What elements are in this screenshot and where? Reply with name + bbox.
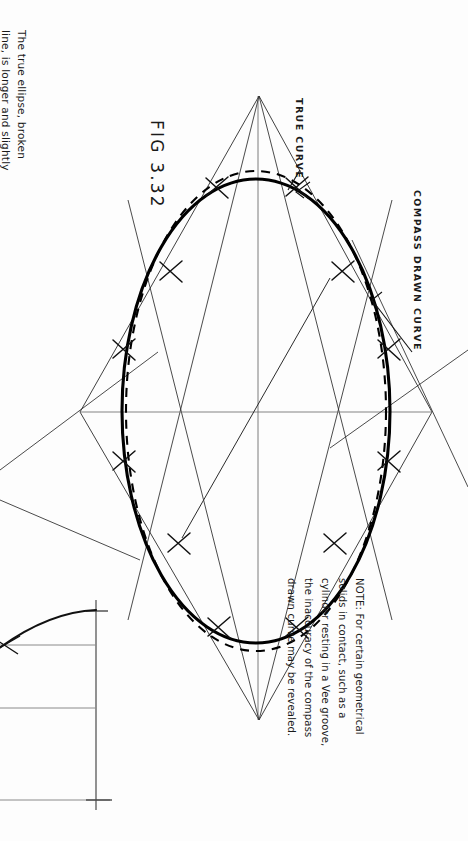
figure-canvas [0,0,468,841]
auxiliary-inclined-centre-line [182,278,330,538]
tick-mark [332,261,354,282]
partial-adjacent-figure [0,600,112,810]
figure-number-label: FIG 3.32 [144,120,170,209]
compass-drawn-curve-label: COMPASS DRAWN CURVE [409,190,424,351]
radial-line-left-lower [0,500,140,560]
tick-mark [113,339,135,360]
radial-line-right-upper [330,350,468,448]
tick-mark [160,261,182,282]
top-caption-note: The true ellipse, broken line, is longer… [0,30,30,180]
compass-drawn-curve [122,179,390,643]
true-curve-label: TRUE CURVE [291,98,306,179]
partial-arc [0,610,96,655]
bottom-note-block: NOTE: For certain geometrical solids in … [283,578,368,746]
drawing-sheet: The true ellipse, broken line, is longer… [0,0,468,841]
leader-compass-curve [372,300,412,352]
tick-mark [324,533,346,554]
tick-mark [168,533,190,554]
auxiliary-radial-lines [0,240,468,560]
